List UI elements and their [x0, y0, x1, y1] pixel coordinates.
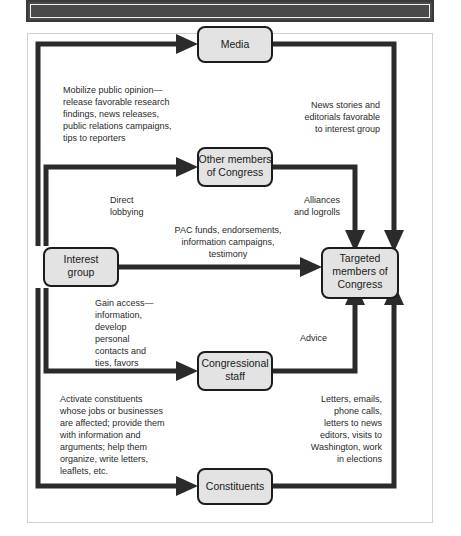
annotation-advice-line-0: Advice [300, 333, 327, 343]
annotation-pac-funds-line-1: information campaigns, [181, 237, 274, 247]
node-congressional-staff[interactable]: Congressional staff [198, 352, 272, 390]
annotation-gain-access-line-5: ties, favors [95, 358, 139, 368]
annotation-letters-line-4: Washington, work [311, 442, 383, 452]
node-targeted-members[interactable]: Targeted members of Congress [322, 248, 398, 298]
flow-media-to-targeted [272, 44, 404, 252]
annotation-activate: Activate constituents whose jobs or busi… [59, 394, 164, 476]
annotation-pac-funds-line-2: testimony [209, 249, 248, 259]
annotation-activate-line-0: Activate constituents [60, 394, 143, 404]
annotation-gain-access-line-4: contacts and [95, 346, 146, 356]
annotation-mobilize-line-2: findings, news releases, [63, 109, 159, 119]
annotation-letters-line-5: in elections [337, 454, 383, 464]
annotation-activate-line-1: whose jobs or businesses [59, 406, 164, 416]
node-interest-group-label-line1: Interest [63, 253, 98, 265]
annotation-alliances-line-0: Alliances [304, 195, 341, 205]
annotation-gain-access-line-2: develop [95, 322, 127, 332]
node-constituents-label: Constituents [206, 480, 264, 492]
node-other-members-label-line2: of Congress [207, 166, 264, 178]
annotation-gain-access-line-1: information, [95, 310, 142, 320]
annotation-mobilize-line-0: Mobilize public opinion— [63, 85, 163, 95]
annotation-pac-funds: PAC funds, endorsements, information cam… [175, 225, 282, 259]
annotation-news-stories-line-2: to interest group [315, 124, 380, 134]
node-targeted-members-label-line1: Targeted [340, 252, 381, 264]
annotation-letters-line-0: Letters, emails, [321, 394, 382, 404]
flow-interest-to-targeted [118, 257, 322, 277]
annotation-news-stories: News stories and editorials favorable to… [304, 100, 380, 134]
annotation-letters-line-2: letters to news [324, 418, 383, 428]
annotation-activate-line-6: leaflets, etc. [60, 466, 108, 476]
annotation-alliances-line-1: and logrolls [294, 207, 341, 217]
annotation-mobilize: Mobilize public opinion— release favorab… [63, 85, 172, 143]
annotation-activate-line-5: organize, write letters, [60, 454, 148, 464]
annotation-gain-access-line-3: personal [95, 334, 130, 344]
interest-group-influence-diagram: Media Other members of Congress Interest… [0, 0, 461, 536]
annotation-letters: Letters, emails, phone calls, letters to… [311, 394, 383, 464]
annotation-direct-lobbying-line-1: lobbying [110, 207, 144, 217]
annotation-news-stories-line-1: editorials favorable [304, 112, 380, 122]
node-congressional-staff-label-line2: staff [225, 370, 245, 382]
node-targeted-members-label-line3: Congress [338, 278, 383, 290]
annotation-direct-lobbying-line-0: Direct [110, 195, 134, 205]
annotation-news-stories-line-0: News stories and [311, 100, 380, 110]
annotation-direct-lobbying: Direct lobbying [110, 195, 144, 217]
node-other-members-label-line1: Other members [199, 153, 272, 165]
annotation-advice: Advice [300, 333, 327, 343]
annotation-gain-access-line-0: Gain access— [95, 298, 154, 308]
annotation-activate-line-4: arguments; help them [60, 442, 147, 452]
annotation-mobilize-line-1: release favorable research [63, 97, 170, 107]
annotation-activate-line-3: with information and [59, 430, 141, 440]
annotation-mobilize-line-4: tips to reporters [63, 133, 126, 143]
node-interest-group[interactable]: Interest group [44, 248, 118, 286]
annotation-alliances: Alliances and logrolls [294, 195, 341, 217]
annotation-letters-line-3: editors, visits to [320, 430, 382, 440]
annotation-mobilize-line-3: public relations campaigns, [63, 121, 172, 131]
node-congressional-staff-label-line1: Congressional [201, 357, 268, 369]
node-other-members[interactable]: Other members of Congress [198, 148, 272, 186]
node-media-label: Media [221, 38, 250, 50]
annotation-letters-line-1: phone calls, [334, 406, 382, 416]
annotation-pac-funds-line-0: PAC funds, endorsements, [175, 225, 282, 235]
node-targeted-members-label-line2: members of [332, 265, 388, 277]
node-media[interactable]: Media [198, 27, 272, 62]
annotation-activate-line-2: are affected; provide them [60, 418, 164, 428]
annotation-gain-access: Gain access— information, develop person… [95, 298, 154, 368]
node-constituents[interactable]: Constituents [198, 469, 272, 504]
node-interest-group-label-line2: group [68, 266, 95, 278]
